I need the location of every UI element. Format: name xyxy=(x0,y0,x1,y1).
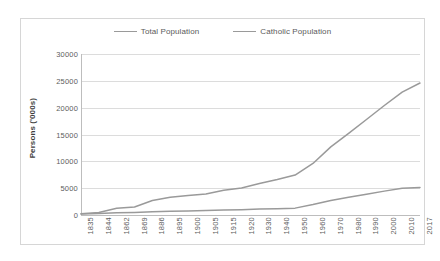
y-tick-label: 30000 xyxy=(56,50,78,59)
x-tick-label: 2000 xyxy=(389,217,398,235)
x-tick-label: 1930 xyxy=(264,217,273,235)
legend-entry-total-population[interactable]: Total Population xyxy=(114,27,200,36)
legend-line-icon xyxy=(114,31,137,32)
y-tick-label: 10000 xyxy=(56,157,78,166)
series-lines xyxy=(81,54,420,215)
y-axis-tick-labels: 050001000015000200002500030000 xyxy=(30,54,78,215)
x-tick-label: 1886 xyxy=(157,217,166,235)
x-axis-tick-labels: 1835184418621869188618951900190519151920… xyxy=(81,217,420,251)
gridline xyxy=(81,215,420,216)
x-tick-label: 1920 xyxy=(246,217,255,235)
x-tick-label: 1862 xyxy=(121,217,130,235)
x-tick-label: 1980 xyxy=(353,217,362,235)
x-tick-label: 1950 xyxy=(300,217,309,235)
x-tick-label: 1990 xyxy=(371,217,380,235)
x-tick-label: 1960 xyxy=(317,217,326,235)
plot-area xyxy=(81,54,420,215)
y-tick-label: 0 xyxy=(74,211,78,220)
x-tick-label: 1895 xyxy=(175,217,184,235)
x-tick-label: 1915 xyxy=(228,217,237,235)
legend-line-icon xyxy=(233,31,256,32)
x-tick-label: 1905 xyxy=(210,217,219,235)
legend-label-total-population: Total Population xyxy=(141,27,200,36)
x-tick-label: 1835 xyxy=(86,217,95,235)
legend-entry-catholic-population[interactable]: Catholic Population xyxy=(233,27,331,36)
x-tick-label: 2010 xyxy=(407,217,416,235)
legend-label-catholic-population: Catholic Population xyxy=(260,27,331,36)
series-line-catholic-population xyxy=(81,188,420,215)
x-tick-label: 1869 xyxy=(139,217,148,235)
x-tick-label: 1844 xyxy=(103,217,112,235)
y-tick-label: 15000 xyxy=(56,130,78,139)
chart-legend: Total Population Catholic Population xyxy=(20,23,425,39)
x-tick-label: 2017 xyxy=(425,217,434,235)
y-tick-label: 5000 xyxy=(61,184,79,193)
x-tick-label: 1900 xyxy=(193,217,202,235)
y-tick-label: 25000 xyxy=(56,76,78,85)
x-tick-label: 1970 xyxy=(335,217,344,235)
x-tick-label: 1940 xyxy=(282,217,291,235)
y-tick-label: 20000 xyxy=(56,103,78,112)
population-line-chart: Total Population Catholic Population Per… xyxy=(0,0,440,261)
